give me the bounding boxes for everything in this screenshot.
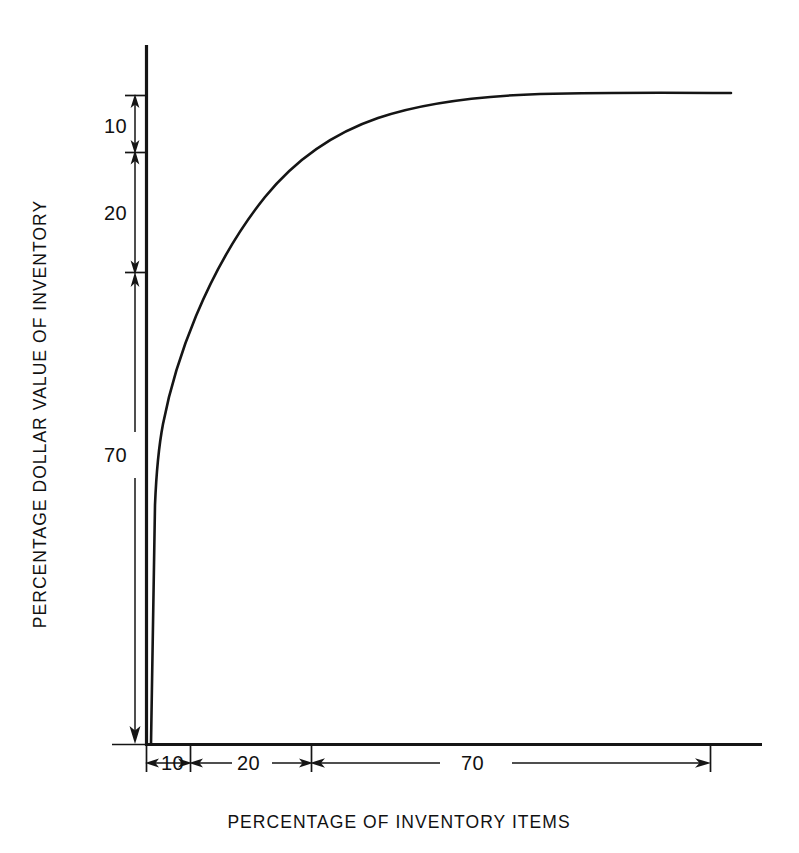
- y-axis-segment-label-20: 20: [104, 202, 127, 224]
- pareto-chart-figure: 10 20 70: [0, 0, 799, 853]
- x-axis-caption: PERCENTAGE OF INVENTORY ITEMS: [227, 812, 570, 832]
- y-axis-segment-label-10: 10: [104, 115, 127, 137]
- x-axis-segment-label-70: 70: [461, 752, 484, 774]
- chart-canvas: 10 20 70: [0, 0, 799, 853]
- x-axis-segment-label-20: 20: [237, 752, 260, 774]
- x-axis-segment-label-10: 10: [161, 752, 184, 774]
- y-axis-caption: PERCENTAGE DOLLAR VALUE OF INVENTORY: [30, 200, 50, 628]
- y-axis-segment-label-70: 70: [104, 444, 127, 466]
